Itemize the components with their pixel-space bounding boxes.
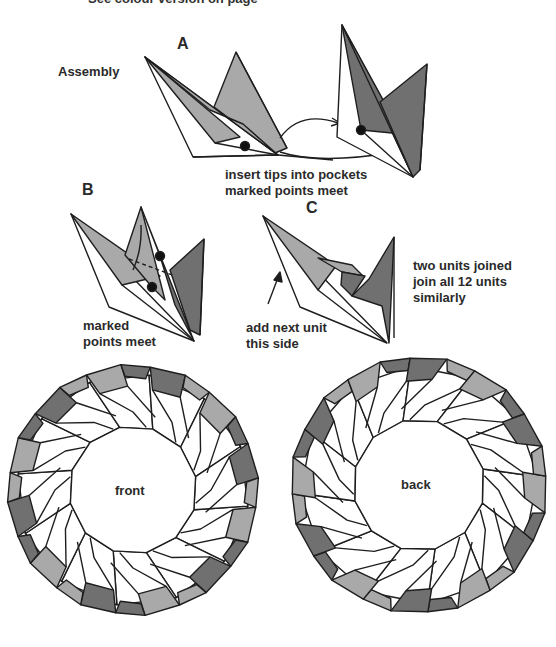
step-c-label: C: [306, 200, 318, 215]
marked-point-icon: [148, 283, 157, 292]
ring-front-label: front: [115, 483, 145, 498]
step-a-caption-2: marked points meet: [225, 183, 348, 198]
marked-point-icon: [156, 252, 165, 261]
step-b-caption-2: points meet: [83, 334, 156, 349]
unit-a-right: [337, 25, 427, 177]
step-c-arrow-caption-1: add next unit: [246, 320, 327, 335]
unit-a-left: [145, 52, 333, 160]
marked-point-icon: [241, 142, 250, 151]
add-next-unit-arrow-icon: [268, 272, 282, 304]
step-a-caption-1: insert tips into pockets: [225, 167, 367, 182]
step-b-caption-1: marked: [83, 318, 129, 333]
step-c-note-3: similarly: [413, 290, 466, 305]
marked-point-icon: [357, 126, 366, 135]
step-c-note-2: join all 12 units: [413, 274, 507, 289]
ring-back-label: back: [401, 477, 431, 492]
step-b-label: B: [82, 182, 94, 197]
section-title: Assembly: [58, 64, 119, 79]
step-a-label: A: [177, 36, 189, 51]
step-c-note-1: two units joined: [413, 258, 512, 273]
step-c-arrow-caption-2: this side: [246, 336, 299, 351]
